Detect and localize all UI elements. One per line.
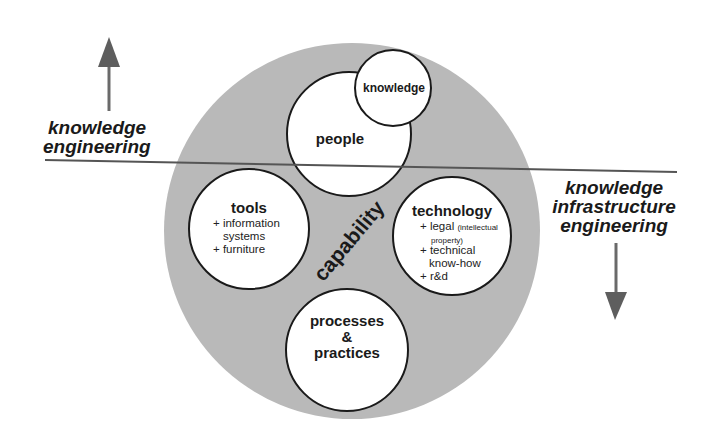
- technology-item-5: + r&d: [420, 270, 448, 283]
- down-arrow-icon: [605, 243, 627, 320]
- processes-line2: &: [297, 329, 397, 345]
- axis-bottom-line3: engineering: [552, 216, 676, 235]
- tools-item-3: + furniture: [213, 243, 265, 256]
- technology-item-4: know-how: [429, 257, 481, 270]
- technology-title: technology: [402, 203, 502, 219]
- technology-item-legal: + legal (intellectual: [420, 220, 498, 234]
- knowledge-engineering-label: knowledge engineering: [43, 118, 151, 156]
- tools-item-2: systems: [223, 230, 265, 243]
- up-arrow-icon: [98, 37, 120, 111]
- knowledge-title: knowledge: [357, 80, 431, 96]
- technology-item-1-note: (intellectual: [457, 223, 497, 232]
- tools-title: tools: [220, 200, 278, 216]
- axis-bottom-line1: knowledge: [552, 178, 676, 197]
- axis-top-line1: knowledge: [43, 118, 151, 137]
- people-title: people: [300, 131, 380, 147]
- processes-line1: processes: [297, 313, 397, 329]
- axis-top-line2: engineering: [43, 137, 151, 156]
- tools-item-1: + information: [213, 217, 280, 230]
- processes-line3: practices: [297, 345, 397, 361]
- technology-item-3: + technical: [420, 244, 475, 257]
- processes-title: processes & practices: [297, 313, 397, 361]
- knowledge-infrastructure-engineering-label: knowledge infrastructure engineering: [552, 178, 676, 235]
- axis-bottom-line2: infrastructure: [552, 197, 676, 216]
- technology-item-1: + legal: [420, 220, 454, 232]
